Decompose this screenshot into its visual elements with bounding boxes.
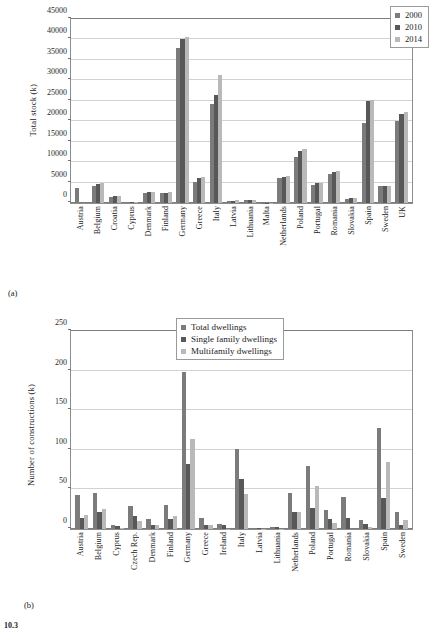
- legend-swatch-icon: [181, 325, 186, 330]
- x-tick-label: Belgium: [94, 532, 103, 560]
- bar: [370, 100, 374, 203]
- x-tick-label: Poland: [308, 532, 317, 555]
- bar: [387, 186, 391, 203]
- x-tick-label: Germany: [178, 206, 187, 236]
- bar-group: [326, 19, 343, 203]
- x-tick-label: Spain: [380, 532, 389, 551]
- figure-number: 10.3: [4, 621, 18, 630]
- bar: [319, 183, 323, 203]
- x-label-cell: Romania: [326, 206, 343, 246]
- x-tick-label: Romania: [330, 206, 339, 236]
- y-tick-label: 25000: [47, 87, 71, 96]
- x-tick-label: Romania: [344, 532, 353, 562]
- y-tick-label: 10000: [47, 149, 71, 158]
- y-tick-label: 35000: [47, 46, 71, 55]
- bar-group: [343, 19, 360, 203]
- legend-swatch-icon: [181, 337, 186, 342]
- legend-row: 2014: [395, 34, 422, 44]
- x-label-cell: Greece: [197, 532, 215, 572]
- y-tick-mark: [68, 17, 71, 18]
- x-label-cell: Portugal: [322, 532, 340, 572]
- plot-area-b: 050100150200250: [70, 330, 413, 530]
- bar-group: [107, 19, 124, 203]
- x-label-cell: Belgium: [89, 206, 106, 246]
- x-label-cell: Poland: [304, 532, 322, 572]
- figure-container: Total stock (k) 050001000015000200002500…: [0, 0, 435, 631]
- bar: [353, 198, 357, 203]
- bar-group: [241, 19, 258, 203]
- bar: [100, 183, 104, 203]
- y-tick-label: 45000: [47, 6, 71, 15]
- bar-group: [215, 331, 233, 529]
- y-tick-label: 20000: [47, 108, 71, 117]
- y-tick-label: 100: [55, 436, 71, 445]
- bar-group: [191, 19, 208, 203]
- x-tick-label: Greece: [195, 206, 204, 229]
- x-label-cell: Spain: [360, 206, 377, 246]
- y-tick-label: 0: [63, 516, 71, 525]
- bar-group: [258, 19, 275, 203]
- x-label-cell: Czech Rep.: [126, 532, 144, 572]
- legend-swatch-icon: [395, 37, 400, 42]
- legend-row: Total dwellings: [181, 322, 277, 332]
- bar-group: [91, 331, 109, 529]
- bar-group: [275, 19, 292, 203]
- bar-group: [304, 331, 322, 529]
- x-label-cell: Ireland: [215, 532, 233, 572]
- x-tick-label: Italy: [237, 532, 246, 547]
- caption-b: (b): [24, 600, 34, 610]
- x-label-cell: Denmark: [143, 532, 161, 572]
- x-tick-label: Lithuania: [246, 206, 255, 238]
- x-axis-labels-a: AustriaBelgiumCroatiaCyprusDenmarkFinlan…: [70, 206, 413, 246]
- x-tick-label: Austria: [76, 532, 85, 556]
- legend-swatch-icon: [395, 13, 400, 18]
- bar-group: [90, 19, 107, 203]
- x-tick-label: Cyprus: [127, 206, 136, 230]
- bar: [134, 202, 138, 203]
- x-label-cell: Cyprus: [108, 532, 126, 572]
- bar-group: [140, 19, 157, 203]
- x-label-cell: Belgium: [90, 532, 108, 572]
- y-tick-label: 0: [63, 190, 71, 199]
- bar: [168, 192, 172, 203]
- bar-group: [108, 331, 126, 529]
- x-tick-label: Latvia: [229, 206, 238, 227]
- legend-row: Multifamily dwellings: [181, 346, 277, 356]
- x-tick-label: Finland: [166, 532, 175, 557]
- y-tick-label: 250: [55, 318, 71, 327]
- x-label-cell: Denmark: [140, 206, 157, 246]
- bar-group: [126, 331, 144, 529]
- bar: [185, 37, 189, 203]
- x-label-cell: Greece: [191, 206, 208, 246]
- x-label-cell: Latvia: [250, 532, 268, 572]
- bar-group: [73, 331, 91, 529]
- x-tick-label: Netherlands: [291, 532, 300, 572]
- bar: [151, 192, 155, 203]
- bar-group: [359, 19, 376, 203]
- bar: [297, 512, 301, 529]
- x-label-cell: Sweden: [393, 532, 411, 572]
- bar: [75, 188, 79, 203]
- bar: [155, 525, 159, 529]
- bar: [84, 515, 88, 529]
- y-tick-label: 15000: [47, 128, 71, 137]
- x-axis-labels-b: AustriaBelgiumCyprusCzech Rep.DenmarkFin…: [70, 532, 413, 572]
- x-label-cell: Slovakia: [358, 532, 376, 572]
- bar: [173, 516, 177, 529]
- x-label-cell: Austria: [72, 206, 89, 246]
- x-tick-label: Sweden: [398, 532, 407, 558]
- bar: [201, 177, 205, 203]
- x-label-cell: Italy: [208, 206, 225, 246]
- x-label-cell: UK: [394, 206, 411, 246]
- bar: [102, 509, 106, 529]
- y-axis-label-b: Number of constructions (k): [26, 384, 36, 486]
- y-tick-label: 50: [59, 476, 71, 485]
- bar: [315, 486, 319, 529]
- chart-panel-b: Number of constructions (k) 050100150200…: [0, 312, 435, 612]
- legend-swatch-icon: [395, 25, 400, 30]
- bar: [336, 171, 340, 203]
- caption-a: (a): [8, 288, 17, 298]
- x-tick-label: Croatia: [110, 206, 119, 230]
- x-label-cell: Lithuania: [242, 206, 259, 246]
- x-tick-label: Slovakia: [347, 206, 356, 235]
